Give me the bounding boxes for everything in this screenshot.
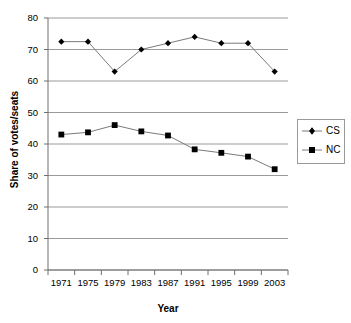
data-point-nc-1991	[192, 146, 198, 152]
data-point-nc-1979	[112, 122, 118, 128]
x-tick-label: 1995	[206, 278, 236, 287]
x-tick-label: 2003	[260, 278, 290, 287]
data-point-nc-1987	[165, 133, 171, 139]
data-point-nc-1995	[218, 150, 224, 156]
data-point-nc-1983	[138, 129, 144, 135]
data-point-nc-2003	[272, 166, 278, 172]
data-point-cs-1991	[192, 34, 198, 40]
data-point-nc-1971	[58, 132, 64, 138]
x-tick-label: 1971	[46, 278, 76, 287]
legend-marker-diamond-icon	[300, 124, 324, 138]
x-tick-label: 1975	[73, 278, 103, 287]
legend-label-nc: NC	[326, 143, 340, 157]
x-tick-label: 1987	[153, 278, 183, 287]
data-point-cs-1987	[165, 40, 171, 46]
x-axis-title: Year	[48, 303, 288, 314]
legend-marker-square-icon	[300, 143, 324, 157]
series-line-nc	[61, 125, 274, 169]
x-tick-label: 1991	[180, 278, 210, 287]
x-tick-label: 1999	[233, 278, 263, 287]
x-tick-label: 1983	[126, 278, 156, 287]
data-point-cs-1995	[218, 40, 224, 46]
legend-item-nc[interactable]: NC	[300, 143, 344, 157]
legend-item-cs[interactable]: CS	[300, 124, 344, 138]
x-tick-label: 1979	[100, 278, 130, 287]
legend: CS NC	[297, 119, 345, 164]
line-chart: Share of votes/seats 01020304050607080 1…	[0, 0, 351, 323]
data-point-nc-1999	[245, 154, 251, 160]
legend-label-cs: CS	[326, 124, 340, 138]
data-point-cs-1971	[58, 39, 64, 45]
data-point-nc-1975	[85, 129, 91, 135]
